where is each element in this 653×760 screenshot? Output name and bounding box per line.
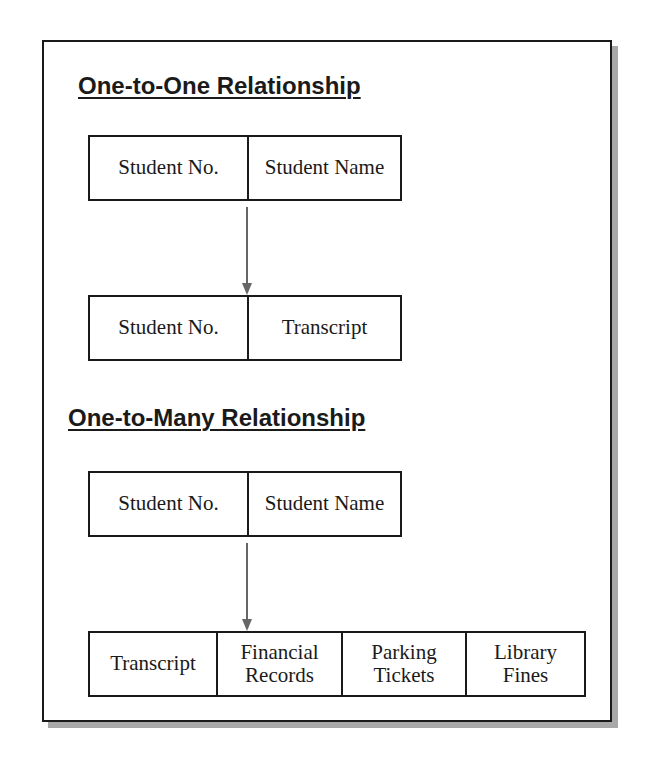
one-to-one-parent-record: Student No. Student Name <box>88 135 402 201</box>
transcript-field: Transcript <box>90 633 216 695</box>
one-to-many-arrowhead-icon <box>242 619 252 631</box>
transcript-field: Transcript <box>247 297 400 359</box>
one-to-one-heading: One-to-One Relationship <box>78 72 361 100</box>
student-name-field: Student Name <box>247 137 400 199</box>
student-name-field: Student Name <box>247 473 400 535</box>
student-no-field: Student No. <box>90 137 247 199</box>
parking-tickets-field: Parking Tickets <box>341 633 465 695</box>
financial-records-field: Financial Records <box>216 633 341 695</box>
student-no-field: Student No. <box>90 473 247 535</box>
one-to-many-arrow-line <box>246 543 248 619</box>
one-to-many-child-records: Transcript Financial Records Parking Tic… <box>88 631 586 697</box>
one-to-one-arrowhead-icon <box>242 283 252 295</box>
one-to-many-heading: One-to-Many Relationship <box>68 404 365 432</box>
one-to-one-arrow-line <box>246 207 248 283</box>
library-fines-field: Library Fines <box>465 633 584 695</box>
one-to-one-child-record: Student No. Transcript <box>88 295 402 361</box>
student-no-field: Student No. <box>90 297 247 359</box>
one-to-many-parent-record: Student No. Student Name <box>88 471 402 537</box>
